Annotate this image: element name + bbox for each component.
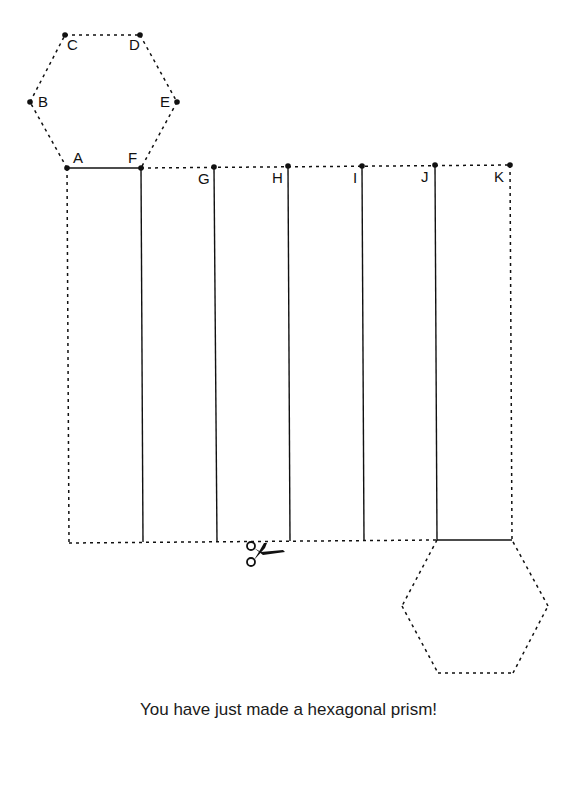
- bottom-hexagon: [402, 540, 548, 673]
- label-e: E: [160, 93, 170, 110]
- label-i: I: [353, 169, 357, 186]
- label-h: H: [272, 169, 283, 186]
- prism-net-diagram: C D B E A F G H I J K: [0, 0, 577, 786]
- caption-text: You have just made a hexagonal prism!: [0, 700, 577, 720]
- vertex-dots: [27, 32, 513, 171]
- label-a: A: [73, 149, 83, 166]
- label-c: C: [67, 36, 78, 53]
- label-j: J: [421, 168, 429, 185]
- label-d: D: [129, 36, 140, 53]
- label-b: B: [38, 93, 48, 110]
- label-g: G: [198, 170, 210, 187]
- label-f: F: [128, 149, 137, 166]
- scissors-icon: [247, 542, 285, 566]
- top-hexagon: [30, 35, 177, 168]
- label-k: K: [494, 168, 504, 185]
- fold-lines: [141, 166, 512, 542]
